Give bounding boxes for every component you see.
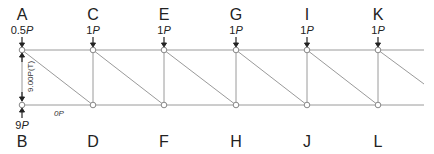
node-label-H: H — [230, 134, 242, 150]
node-label-B: B — [17, 134, 28, 150]
member-label-AB: 9.00P(T) — [27, 61, 35, 92]
load-arrow-icon — [20, 37, 381, 47]
truss-diagram — [0, 0, 434, 154]
member-IL — [307, 50, 378, 105]
reaction-arrow-icon — [20, 108, 25, 118]
load-label-G: 1P — [229, 25, 242, 36]
node-label-L: L — [374, 134, 383, 150]
reaction-label-B: 9P — [15, 120, 28, 131]
member-CF — [93, 50, 164, 105]
node-label-C: C — [87, 7, 99, 23]
node-label-F: F — [159, 134, 169, 150]
node-label-E: E — [159, 7, 170, 23]
load-label-A: 0.5P — [11, 25, 34, 36]
node-label-D: D — [87, 134, 99, 150]
node-label-I: I — [305, 7, 309, 23]
node-label-K: K — [373, 7, 384, 23]
member-EH — [164, 50, 236, 105]
member-GJ — [236, 50, 307, 105]
member-label-BD: 0P — [54, 110, 64, 118]
member-K-partial — [378, 50, 424, 84]
node-label-A: A — [17, 7, 28, 23]
load-label-C: 1P — [86, 25, 99, 36]
load-label-I: 1P — [300, 25, 313, 36]
load-label-E: 1P — [157, 25, 170, 36]
load-label-K: 1P — [371, 25, 384, 36]
node-label-G: G — [230, 7, 242, 23]
node-label-J: J — [303, 134, 311, 150]
